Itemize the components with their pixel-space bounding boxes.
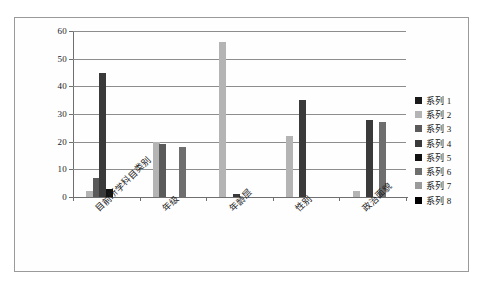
y-tick-label: 30 <box>57 109 67 119</box>
category-axis: 目前所学科目类别年级年龄层性别政治面貌 <box>73 197 406 267</box>
legend-label: 系列 1 <box>426 94 452 107</box>
legend-swatch-icon <box>415 140 422 147</box>
y-tick-label: 20 <box>57 137 67 147</box>
category-tick <box>339 197 340 201</box>
bar <box>99 73 106 198</box>
legend-item[interactable]: 系列 2 <box>415 107 471 121</box>
bar <box>159 144 166 197</box>
legend-swatch-icon <box>415 154 422 161</box>
category-tick <box>406 197 407 201</box>
legend-swatch-icon <box>415 168 422 175</box>
legend-label: 系列 3 <box>426 122 452 135</box>
category-tick <box>73 197 74 201</box>
legend-swatch-icon <box>415 125 422 132</box>
chart-frame: 0102030405060 目前所学科目类别年级年龄层性别政治面貌 系列 1系列… <box>14 17 469 272</box>
legend-swatch-icon <box>415 97 422 104</box>
category-tick <box>206 197 207 201</box>
legend-label: 系列 5 <box>426 151 452 164</box>
y-tick-label: 10 <box>57 164 67 174</box>
legend-swatch-icon <box>415 197 422 204</box>
legend-item[interactable]: 系列 6 <box>415 164 471 178</box>
legend-swatch-icon <box>415 111 422 118</box>
legend-label: 系列 8 <box>426 194 452 207</box>
legend-label: 系列 4 <box>426 137 452 150</box>
y-tick-label: 60 <box>57 26 67 36</box>
y-tick-label: 40 <box>57 81 67 91</box>
bar <box>179 147 186 197</box>
category-tick <box>273 197 274 201</box>
legend-item[interactable]: 系列 1 <box>415 93 471 107</box>
category-tick <box>140 197 141 201</box>
chart-legend: 系列 1系列 2系列 3系列 4系列 5系列 6系列 7系列 8 <box>415 93 471 207</box>
bar <box>299 100 306 197</box>
legend-item[interactable]: 系列 8 <box>415 193 471 207</box>
legend-label: 系列 2 <box>426 108 452 121</box>
y-tick-label: 50 <box>57 54 67 64</box>
y-tick-label: 0 <box>62 192 67 202</box>
legend-item[interactable]: 系列 7 <box>415 179 471 193</box>
legend-swatch-icon <box>415 182 422 189</box>
bar <box>286 136 293 197</box>
legend-label: 系列 6 <box>426 165 452 178</box>
legend-label: 系列 7 <box>426 179 452 192</box>
legend-item[interactable]: 系列 5 <box>415 150 471 164</box>
legend-item[interactable]: 系列 4 <box>415 136 471 150</box>
legend-item[interactable]: 系列 3 <box>415 122 471 136</box>
bar <box>219 42 226 197</box>
bar <box>366 120 373 197</box>
